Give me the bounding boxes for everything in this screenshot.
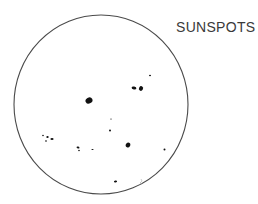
sunspot xyxy=(50,138,53,140)
sunspot xyxy=(45,140,47,142)
sunspot xyxy=(125,142,131,149)
sunspot xyxy=(42,135,44,136)
sunspot xyxy=(149,75,151,77)
sunspot xyxy=(84,96,93,105)
sunspot xyxy=(46,136,48,138)
sunspot xyxy=(109,130,111,132)
sun-diagram xyxy=(0,0,258,204)
sunspot xyxy=(138,85,144,91)
sunspot xyxy=(114,180,117,183)
sunspot xyxy=(76,146,79,149)
sunspot xyxy=(110,118,111,119)
sunspot xyxy=(131,86,136,90)
sun-disk xyxy=(14,15,188,194)
sunspot xyxy=(164,149,166,151)
sunspot xyxy=(91,149,93,150)
sunspot xyxy=(78,150,80,151)
sunspot-group xyxy=(42,75,165,183)
